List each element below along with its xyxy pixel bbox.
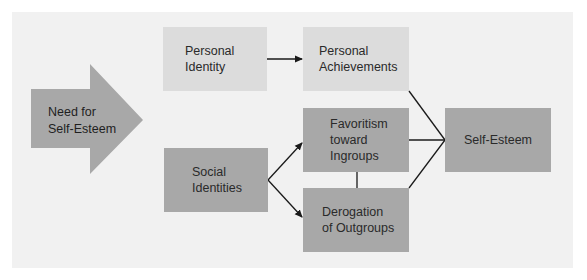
node-label: Personal Identity [185, 43, 234, 75]
node-self-esteem: Self-Esteem [445, 108, 551, 172]
edge-social-to-favoritism [268, 143, 302, 180]
node-personal-identity: Personal Identity [163, 27, 267, 91]
node-favoritism-toward-ingroups: Favoritism toward Ingroups [303, 108, 409, 172]
node-social-identities: Social Identities [164, 148, 268, 212]
node-label: Derogation of Outgroups [322, 204, 394, 236]
need-for-self-esteem-label: Need for Self-Esteem [48, 104, 116, 138]
edge-achievements-to-self-esteem [409, 91, 445, 140]
node-label: Self-Esteem [464, 132, 532, 148]
edge-social-to-derogation [268, 180, 302, 217]
edge-derogation-to-self-esteem [409, 140, 445, 188]
node-derogation-of-outgroups: Derogation of Outgroups [303, 188, 409, 252]
node-personal-achievements: Personal Achievements [303, 27, 409, 91]
node-label: Favoritism toward Ingroups [330, 116, 388, 164]
node-label: Social Identities [192, 164, 242, 196]
node-label: Personal Achievements [319, 43, 398, 75]
